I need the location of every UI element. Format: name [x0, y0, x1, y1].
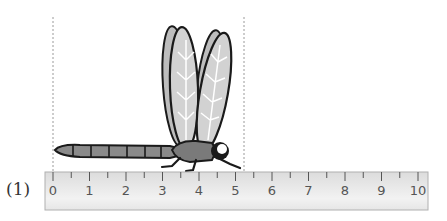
dragonfly-illustration — [55, 25, 240, 171]
eye-highlight — [217, 144, 227, 154]
ruler-tick-label: 1 — [85, 183, 93, 198]
ruler-tick-label: 3 — [158, 183, 166, 198]
ruler-tick-label: 4 — [195, 183, 203, 198]
ruler-tick-label: 7 — [304, 183, 312, 198]
ruler-tick-label: 2 — [122, 183, 130, 198]
ruler-tick-label: 0 — [49, 183, 57, 198]
ruler-tick-label: 6 — [268, 183, 276, 198]
ruler-tick-label: 9 — [377, 183, 385, 198]
ruler-tick-label: 10 — [410, 183, 427, 198]
ruler-tick-label: 5 — [231, 183, 239, 198]
ruler-tick-label: 8 — [341, 183, 349, 198]
ruler: 012345678910 — [45, 172, 428, 210]
diagram-canvas: 012345678910 — [0, 0, 447, 221]
